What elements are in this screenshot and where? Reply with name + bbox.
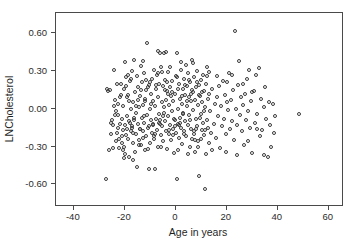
scatter-point — [164, 50, 168, 54]
scatter-point — [219, 104, 223, 108]
scatter-point — [141, 136, 145, 140]
scatter-point — [208, 109, 212, 113]
scatter-point — [120, 117, 124, 121]
x-axis-tick — [277, 206, 278, 210]
scatter-point — [180, 94, 184, 98]
scatter-point — [115, 131, 119, 135]
scatter-point — [167, 128, 171, 132]
scatter-point — [257, 66, 261, 70]
scatter-point — [205, 74, 209, 78]
scatter-point — [135, 165, 139, 169]
scatter-point — [169, 138, 173, 142]
scatter-point — [178, 116, 182, 120]
scatter-point — [264, 117, 268, 121]
scatter-point — [194, 127, 198, 131]
scatter-point — [230, 73, 234, 77]
scatter-point — [226, 108, 230, 112]
y-axis-tick-label: -0.60 — [25, 178, 47, 189]
scatter-point — [112, 68, 116, 72]
scatter-point — [193, 138, 197, 142]
scatter-point — [136, 122, 140, 126]
scatter-point — [170, 79, 174, 83]
scatter-point — [196, 145, 200, 149]
scatter-point — [127, 99, 131, 103]
x-axis-tick-label: 40 — [271, 211, 282, 222]
scatter-point — [188, 118, 192, 122]
scatter-point — [159, 145, 163, 149]
scatter-point — [213, 102, 217, 106]
x-axis-tick-label: -20 — [117, 211, 131, 222]
scatter-point — [250, 151, 254, 155]
scatter-point — [205, 65, 209, 69]
scatter-point — [242, 143, 246, 147]
scatter-point — [159, 65, 163, 69]
scatter-point — [153, 167, 157, 171]
x-axis-tick — [226, 206, 227, 210]
scatter-point — [209, 131, 213, 135]
scatter-point — [201, 121, 205, 125]
scatter-point — [118, 122, 122, 126]
scatter-point — [149, 92, 153, 96]
scatter-point — [152, 68, 156, 72]
scatter-point — [185, 104, 189, 108]
scatter-point — [148, 80, 152, 84]
scatter-point — [141, 59, 145, 63]
scatter-point — [171, 133, 175, 137]
scatter-point — [111, 146, 115, 150]
scatter-point — [109, 132, 113, 136]
scatter-point — [125, 114, 129, 118]
scatter-point — [191, 108, 195, 112]
scatter-point — [154, 87, 158, 91]
scatter-point — [234, 107, 238, 111]
scatter-point — [145, 41, 149, 45]
scatter-point — [160, 70, 164, 74]
scatter-point — [246, 109, 250, 113]
scatter-point — [163, 119, 167, 123]
scatter-point — [142, 121, 146, 125]
scatter-point — [189, 92, 193, 96]
scatter-point — [138, 127, 142, 131]
scatter-point — [177, 82, 181, 86]
scatter-point — [147, 167, 151, 171]
scatter-point — [180, 142, 184, 146]
scatter-point — [202, 109, 206, 113]
x-axis-tick — [73, 206, 74, 210]
scatter-point — [186, 71, 190, 75]
scatter-point — [166, 92, 170, 96]
scatter-point — [147, 124, 151, 128]
scatter-point — [109, 121, 113, 125]
scatter-point — [241, 103, 245, 107]
scatter-point — [230, 119, 234, 123]
scatter-point — [235, 153, 239, 157]
scatter-point — [168, 65, 172, 69]
scatter-point — [156, 71, 160, 75]
scatter-point — [207, 92, 211, 96]
scatter-point — [120, 141, 124, 145]
scatter-point — [173, 124, 177, 128]
scatter-point — [116, 126, 120, 130]
scatter-point — [263, 85, 267, 89]
scatter-point — [123, 60, 127, 64]
x-axis-tick-label: 60 — [322, 211, 333, 222]
scatter-point — [203, 128, 207, 132]
scatter-point — [245, 77, 249, 81]
scatter-point — [160, 124, 164, 128]
scatter-point — [224, 150, 228, 154]
scatter-point — [204, 82, 208, 86]
scatter-point — [104, 177, 108, 181]
scatter-point — [175, 51, 179, 55]
scatter-point — [121, 128, 125, 132]
scatter-point — [195, 69, 199, 73]
scatter-point — [143, 99, 147, 103]
scatter-point — [193, 98, 197, 102]
scatter-point — [142, 71, 146, 75]
scatter-point — [179, 68, 183, 72]
scatter-point — [229, 98, 233, 102]
scatter-point — [129, 77, 133, 81]
scatter-point — [163, 88, 167, 92]
scatter-point — [254, 73, 258, 77]
x-axis-title-text: Age in years — [169, 226, 227, 238]
scatter-point — [253, 121, 257, 125]
scatter-point — [172, 151, 176, 155]
scatter-point — [165, 80, 169, 84]
